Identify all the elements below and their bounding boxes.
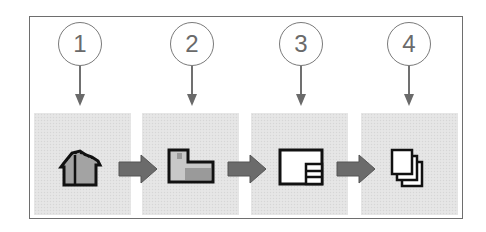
flow-arrow-1-2 bbox=[117, 153, 159, 185]
flow-arrow-2-3 bbox=[226, 153, 268, 185]
step-3-callout: 3 bbox=[279, 22, 323, 66]
l-shaped-part-icon bbox=[167, 148, 215, 184]
drawing-sheet-icon bbox=[278, 148, 324, 186]
flow-arrow-3-4 bbox=[335, 153, 377, 185]
step-1-callout: 1 bbox=[58, 22, 102, 66]
house-model-icon bbox=[58, 145, 104, 187]
step-4-number: 4 bbox=[402, 30, 415, 58]
stacked-pages-icon bbox=[390, 148, 426, 190]
step-2-number: 2 bbox=[185, 30, 198, 58]
step-4-callout: 4 bbox=[387, 22, 431, 66]
step-2-callout: 2 bbox=[170, 22, 214, 66]
step-1-number: 1 bbox=[73, 30, 86, 58]
step-3-number: 3 bbox=[294, 30, 307, 58]
